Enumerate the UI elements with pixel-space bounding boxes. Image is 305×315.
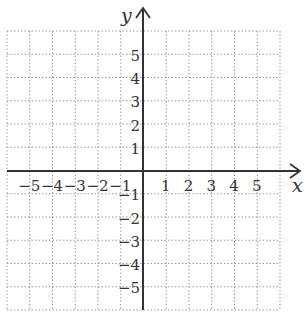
y-tick-label: −5 [118, 279, 140, 297]
x-tick-label: 4 [229, 177, 239, 195]
y-tick-label: −4 [118, 256, 140, 274]
y-tick-label: −2 [118, 210, 140, 228]
y-tick-label: 2 [130, 117, 140, 135]
y-tick-label: 1 [130, 140, 140, 158]
y-tick-label: 3 [130, 93, 140, 111]
x-tick-label: −2 [86, 177, 108, 195]
y-tick-label: 5 [130, 47, 140, 65]
coordinate-plane: x y −5−4−3−2−112345 54321−1−2−3−4−5 [0, 0, 305, 315]
y-tick-label: −3 [118, 233, 140, 251]
x-tick-label: 1 [161, 177, 171, 195]
x-axis-label: x [292, 174, 303, 196]
x-tick-label: −5 [18, 177, 40, 195]
x-tick-label: 5 [252, 177, 262, 195]
y-tick-label: −1 [118, 186, 140, 204]
y-tick-label: 4 [130, 70, 140, 88]
x-tick-label: 3 [206, 177, 216, 195]
axes: x y [7, 4, 303, 310]
x-tick-label: −3 [64, 177, 86, 195]
y-axis-label: y [120, 4, 132, 26]
x-tick-label: −4 [41, 177, 63, 195]
x-tick-label: 2 [184, 177, 194, 195]
